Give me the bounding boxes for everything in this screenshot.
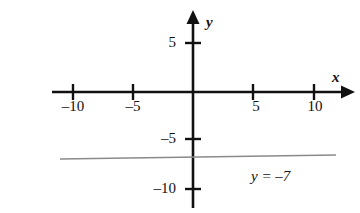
x-tick-label-neg10: –10 [53,99,93,114]
x-tick-label-neg5: –5 [116,99,150,114]
x-tick-label-pos10: 10 [297,99,333,114]
plotted-line-y-equals-negative-7 [60,155,336,159]
y-axis-label: y [206,15,213,30]
graph-figure: y x –10 –5 5 10 5 –5 –10 y = –7 [0,0,360,213]
y-tick-label-neg5: –5 [146,131,176,146]
x-axis-label: x [332,70,340,85]
x-tick-label-pos5: 5 [241,99,271,114]
y-tick-label-neg10: –10 [136,181,176,196]
y-tick-label-pos5: 5 [158,35,176,50]
line-equation-label: y = –7 [251,169,290,184]
y-axis-arrowhead [187,10,200,24]
x-axis-arrowhead [341,86,355,99]
